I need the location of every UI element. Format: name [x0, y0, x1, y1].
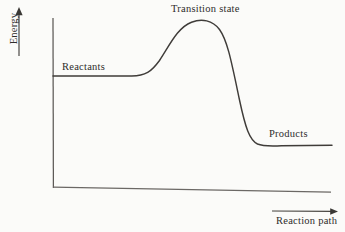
annotation-products: Products [269, 128, 308, 139]
x-axis-line [53, 187, 331, 192]
reaction-arrow-head [330, 208, 338, 215]
reaction-energy-diagram: Energy Reaction path Reactants Transitio… [0, 0, 345, 232]
annotation-transition-state: Transition state [171, 3, 240, 14]
annotation-reactants: Reactants [62, 61, 105, 72]
reaction-path-arrow-icon [272, 208, 338, 215]
x-axis-label: Reaction path [276, 215, 337, 226]
y-axis-label: Energy [8, 2, 19, 56]
diagram-canvas [0, 0, 345, 232]
